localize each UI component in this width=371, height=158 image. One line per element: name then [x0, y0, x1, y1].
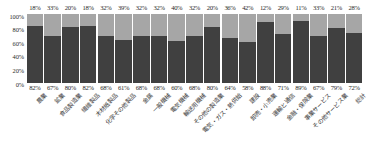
y-tick-label: 20% [0, 68, 24, 74]
bar-segment-bottom [98, 36, 115, 83]
y-tick-label: 0% [0, 82, 24, 88]
bar-segment-top [239, 14, 256, 43]
bar-segment-bottom [62, 27, 79, 82]
bar-column [168, 14, 186, 83]
bar-column [310, 14, 328, 83]
bar-segment-top [115, 14, 132, 41]
bottom-value-label: 80% [61, 84, 79, 91]
stacked-bar-chart: 100%80%60%40%20%0% 18%33%20%18%32%39%32%… [0, 0, 371, 158]
bar-segment-top [44, 14, 61, 37]
top-value-label: 28% [345, 4, 363, 11]
bar-segment-top [310, 14, 327, 37]
bar-column [186, 14, 204, 83]
bar-segment-bottom [133, 36, 150, 83]
bar-segment-bottom [328, 28, 345, 83]
category-label: 農業 [35, 92, 48, 105]
bottom-value-label: 60% [168, 84, 186, 91]
bar-segment-bottom [204, 27, 221, 82]
top-value-label: 20% [61, 4, 79, 11]
bottom-value-label: 82% [79, 84, 97, 91]
y-tick-label: 80% [0, 27, 24, 33]
bottom-value-label: 61% [115, 84, 133, 91]
top-value-label: 36% [221, 4, 239, 11]
bar-segment-bottom [44, 36, 61, 82]
bottom-value-label: 88% [257, 84, 275, 91]
bottom-value-label: 82% [26, 84, 44, 91]
bottom-value-label: 67% [310, 84, 328, 91]
bar-column [203, 14, 221, 83]
top-value-label: 40% [168, 4, 186, 11]
bottom-value-label: 68% [186, 84, 204, 91]
bar-segment-bottom [168, 41, 185, 82]
bar-segment-top [328, 14, 345, 28]
top-value-label: 32% [186, 4, 204, 11]
bar-column [61, 14, 79, 83]
bar-segment-top [222, 14, 239, 39]
y-tick-label: 100% [0, 14, 24, 20]
y-tick-label: 60% [0, 41, 24, 47]
bottom-value-label: 64% [221, 84, 239, 91]
bar-column [239, 14, 257, 83]
bar-segment-top [151, 14, 168, 36]
bar-segment-bottom [275, 34, 292, 83]
bar-column [26, 14, 44, 83]
bar-segment-top [293, 14, 310, 22]
top-value-label: 12% [257, 4, 275, 11]
category-axis-labels: 農業鉱業食品製造業繊維製品木材紙製品化学その他製品金属一般機械電気機械輸送用機械… [26, 92, 363, 158]
bottom-value-label: 68% [150, 84, 168, 91]
bar-segment-bottom [186, 36, 203, 83]
top-value-labels: 18%33%20%18%32%39%32%32%40%32%20%36%42%1… [26, 4, 363, 11]
bar-column [115, 14, 133, 83]
top-value-label: 29% [274, 4, 292, 11]
bar-segment-bottom [80, 26, 97, 83]
top-value-label: 20% [203, 4, 221, 11]
top-value-label: 18% [26, 4, 44, 11]
bottom-value-label: 68% [97, 84, 115, 91]
bottom-value-label: 72% [345, 84, 363, 91]
bar-column [97, 14, 115, 83]
bar-segment-top [80, 14, 97, 26]
bar-segment-bottom [222, 38, 239, 82]
top-value-label: 18% [79, 4, 97, 11]
bottom-value-label: 68% [132, 84, 150, 91]
bottom-value-label: 71% [274, 84, 292, 91]
y-tick-label: 40% [0, 54, 24, 60]
bar-segment-top [346, 14, 363, 33]
bar-segment-top [62, 14, 79, 28]
bar-column [79, 14, 97, 83]
top-value-label: 33% [44, 4, 62, 11]
bottom-value-label: 79% [327, 84, 345, 91]
plot-area [26, 14, 363, 83]
bar-segment-bottom [239, 42, 256, 82]
bar-segment-bottom [310, 36, 327, 82]
category-label: 建設 [247, 92, 260, 105]
category-label: 金属 [141, 92, 154, 105]
top-value-label: 11% [292, 4, 310, 11]
top-value-label: 32% [97, 4, 115, 11]
top-value-label: 21% [327, 4, 345, 11]
top-value-label: 39% [115, 4, 133, 11]
bar-segment-bottom [151, 36, 168, 83]
bar-segment-top [186, 14, 203, 36]
bar-segment-top [168, 14, 185, 42]
top-value-label: 42% [239, 4, 257, 11]
bar-segment-top [27, 14, 44, 26]
bar-column [44, 14, 62, 83]
category-label: 一般機械 [151, 92, 173, 114]
bar-column [345, 14, 363, 83]
bar-segment-bottom [257, 22, 274, 83]
top-value-label: 32% [150, 4, 168, 11]
bar-segment-top [257, 14, 274, 22]
bottom-value-label: 58% [239, 84, 257, 91]
category-label: 鉱業 [52, 92, 65, 105]
bottom-value-label: 67% [44, 84, 62, 91]
bar-column [292, 14, 310, 83]
bar-column [150, 14, 168, 83]
bar-column [274, 14, 292, 83]
bar-column [327, 14, 345, 83]
bar-segment-top [98, 14, 115, 36]
bar-segment-top [204, 14, 221, 28]
bar-segment-bottom [115, 40, 132, 82]
y-axis: 100%80%60%40%20%0% [0, 8, 26, 86]
bar-segment-top [275, 14, 292, 34]
